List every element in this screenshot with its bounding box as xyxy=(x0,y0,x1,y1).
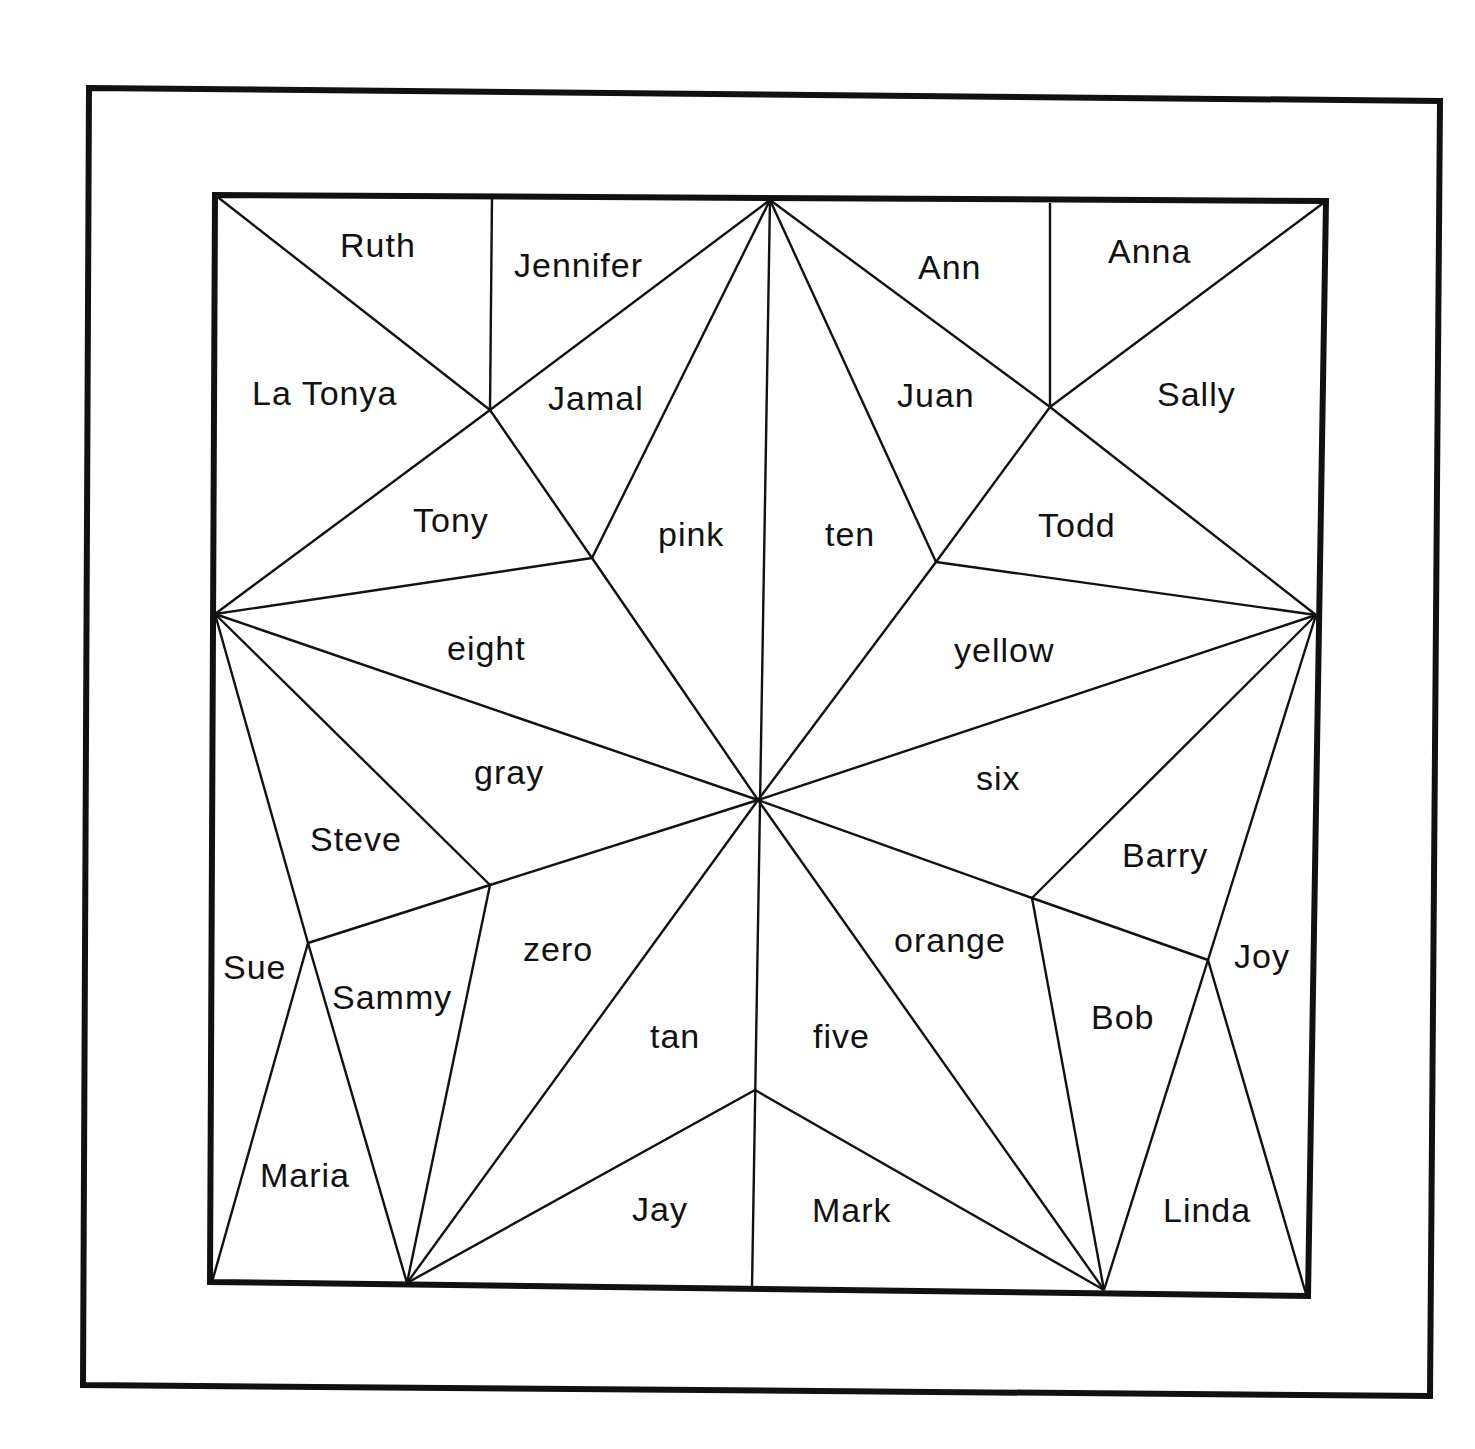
label-tony: Tony xyxy=(413,501,489,539)
label-yellow: yellow xyxy=(954,631,1054,669)
label-jay: Jay xyxy=(632,1190,688,1228)
label-jennifer: Jennifer xyxy=(514,246,643,284)
label-tan: tan xyxy=(650,1017,700,1055)
label-pink: pink xyxy=(658,515,724,553)
label-five: five xyxy=(813,1017,870,1055)
label-linda: Linda xyxy=(1163,1191,1251,1229)
label-todd: Todd xyxy=(1038,506,1116,544)
label-joy: Joy xyxy=(1234,937,1290,975)
label-ten: ten xyxy=(825,515,875,553)
label-jamal: Jamal xyxy=(548,379,644,417)
label-sue: Sue xyxy=(223,948,287,986)
label-sammy: Sammy xyxy=(332,978,452,1016)
label-barry: Barry xyxy=(1122,836,1208,874)
label-zero: zero xyxy=(523,930,593,968)
label-maria: Maria xyxy=(260,1156,350,1194)
label-eight: eight xyxy=(447,629,526,667)
label-la-tonya: La Tonya xyxy=(252,374,397,412)
label-ruth: Ruth xyxy=(340,226,416,264)
label-anna: Anna xyxy=(1108,232,1191,270)
label-sally: Sally xyxy=(1157,375,1236,413)
interior-lines xyxy=(212,195,1326,1294)
label-bob: Bob xyxy=(1091,998,1155,1036)
label-gray: gray xyxy=(474,753,544,791)
label-orange: orange xyxy=(894,921,1006,959)
label-mark: Mark xyxy=(812,1191,892,1229)
label-steve: Steve xyxy=(310,820,402,858)
label-juan: Juan xyxy=(897,376,975,414)
quilt-diagram: Ruth Jennifer Ann Anna La Tonya Jamal Ju… xyxy=(0,0,1475,1449)
label-six: six xyxy=(976,759,1021,797)
label-ann: Ann xyxy=(918,248,982,286)
